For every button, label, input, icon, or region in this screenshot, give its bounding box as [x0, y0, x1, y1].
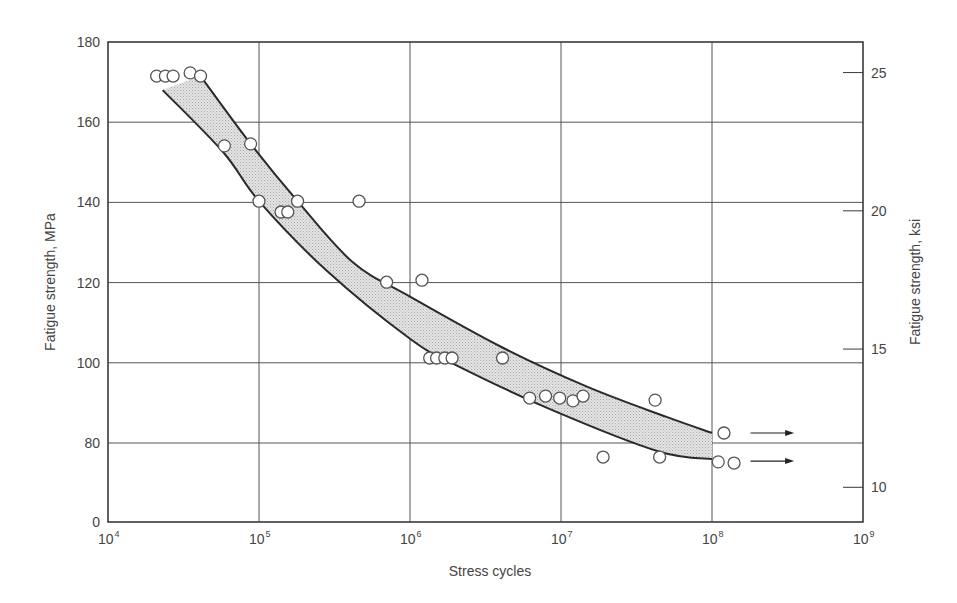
data-point [218, 140, 230, 152]
y-axis-title-left: Fatigue strength, MPa [42, 213, 58, 351]
arrowhead-icon [785, 430, 794, 436]
data-point [554, 392, 566, 404]
scatter-band-upper-curve [201, 76, 712, 433]
y-tick-label: 100 [77, 355, 101, 371]
runout-data-point [728, 457, 740, 469]
x-axis-title: Stress cycles [449, 563, 531, 579]
data-point [381, 276, 393, 288]
scatter-band [163, 76, 712, 459]
data-point [195, 70, 207, 82]
data-point [497, 352, 509, 364]
data-point [353, 195, 365, 207]
x-axis-tick-labels: 104105106107108109 [98, 529, 875, 547]
data-point [597, 451, 609, 463]
y-tick-label: 140 [77, 194, 101, 210]
y-axis-tick-labels: 080100120140160180 [77, 34, 101, 530]
y-axis-title-right: Fatigue strength, ksi [907, 219, 923, 345]
data-point [649, 394, 661, 406]
right-y-tick-label: 10 [871, 479, 887, 495]
data-point [292, 195, 304, 207]
fatigue-chart: 104105106107108109 080100120140160180 10… [0, 0, 957, 603]
right-y-tick-label: 20 [871, 203, 887, 219]
data-point [712, 456, 724, 468]
right-axis-ticks [843, 73, 863, 488]
y-tick-label: 180 [77, 34, 101, 50]
runout-arrows [751, 430, 795, 464]
x-tick-label: 107 [551, 529, 573, 547]
data-point [654, 451, 666, 463]
data-point [540, 390, 552, 402]
x-tick-label: 108 [702, 529, 724, 547]
data-point [524, 392, 536, 404]
data-point [253, 195, 265, 207]
x-tick-label: 109 [853, 529, 875, 547]
data-point [167, 70, 179, 82]
data-point [446, 352, 458, 364]
x-tick-label: 106 [400, 529, 422, 547]
y-tick-label: 160 [77, 114, 101, 130]
right-y-axis-tick-labels: 10152025 [871, 65, 887, 496]
data-point [416, 274, 428, 286]
x-tick-label: 104 [98, 529, 120, 547]
right-y-tick-label: 25 [871, 65, 887, 81]
data-point [577, 390, 589, 402]
y-tick-label: 0 [92, 514, 100, 530]
y-tick-label: 120 [77, 275, 101, 291]
data-point [282, 206, 294, 218]
right-y-tick-label: 15 [871, 341, 887, 357]
data-point [245, 138, 257, 150]
y-tick-label: 80 [84, 435, 100, 451]
runout-data-point [718, 427, 730, 439]
arrowhead-icon [785, 458, 794, 464]
x-tick-label: 105 [249, 529, 271, 547]
